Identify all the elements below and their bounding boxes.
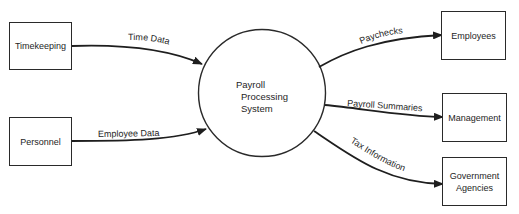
process-label-line-3: System <box>236 103 288 115</box>
sink-employees-label: Employees <box>451 30 496 42</box>
flow-paychecks <box>319 35 442 67</box>
source-timekeeping: Timekeeping <box>9 22 72 70</box>
sink-government-label-line-1: Government <box>450 170 500 182</box>
process-label-line-1: Payroll <box>236 79 288 91</box>
flow-label-employee-data: Employee Data <box>98 128 160 139</box>
flow-label-payroll-summaries: Payroll Summaries <box>347 98 424 113</box>
source-personnel-label: Personnel <box>20 136 61 148</box>
source-personnel: Personnel <box>9 117 72 166</box>
sink-management-label: Management <box>448 112 501 124</box>
sink-government-agencies: Government Agencies <box>442 157 507 206</box>
sink-management: Management <box>442 93 507 142</box>
sink-government-label-line-2: Agencies <box>456 182 493 194</box>
flow-time-data <box>72 46 202 64</box>
sink-employees: Employees <box>441 11 506 60</box>
process-label-line-2: Processing <box>236 91 288 103</box>
flow-label-tax-information: Tax Information <box>349 135 407 173</box>
source-timekeeping-label: Timekeeping <box>15 40 66 52</box>
flow-label-time-data: Time Data <box>128 32 171 47</box>
process-label: Payroll Processing System <box>236 79 288 115</box>
